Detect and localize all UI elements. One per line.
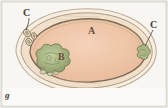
label-c-left: C [23, 8, 30, 18]
label-a: A [88, 26, 95, 36]
figure-sublabel: g [5, 91, 10, 100]
sublabel-strip [2, 88, 166, 106]
label-c-right: C [150, 20, 157, 30]
label-b: B [58, 52, 65, 62]
figure-container: A B C C g [0, 0, 168, 108]
